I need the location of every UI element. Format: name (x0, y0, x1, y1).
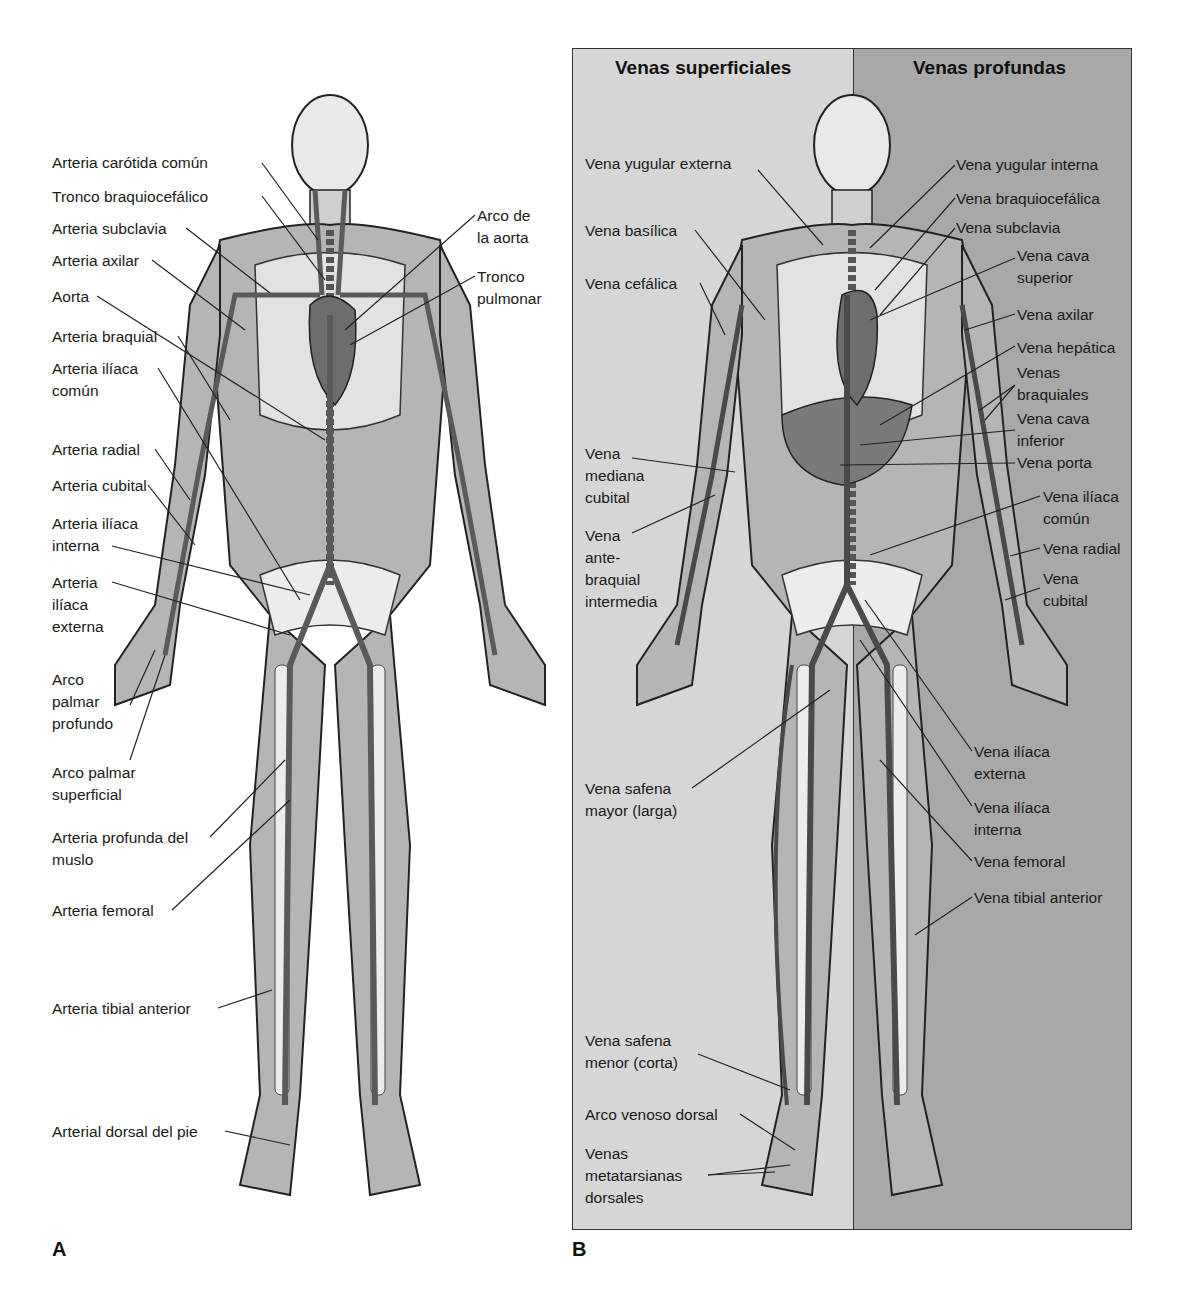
artery-label: Arteria carótida común (52, 152, 208, 174)
artery-label: Arteria ilíaca común (52, 358, 138, 402)
vein-label: Venas metatarsianas dorsales (585, 1143, 682, 1209)
vein-label: Vena ilíaca común (1043, 486, 1119, 530)
artery-label: Arteria ilíaca interna (52, 513, 138, 557)
vein-label: Vena radial (1043, 538, 1121, 560)
artery-label: Arterial dorsal del pie (52, 1121, 198, 1143)
artery-label: Arteria radial (52, 439, 140, 461)
artery-label: Arco palmar profundo (52, 669, 113, 735)
vein-label: Venas braquiales (1017, 362, 1089, 406)
artery-label: Tronco braquiocefálico (52, 186, 208, 208)
artery-label: Arteria cubital (52, 475, 147, 497)
vein-label: Vena safena menor (corta) (585, 1030, 678, 1074)
vein-label: Vena mediana cubital (585, 443, 644, 509)
artery-label: Tronco pulmonar (477, 266, 542, 310)
vein-label: Vena yugular externa (585, 153, 732, 175)
vein-label: Vena porta (1017, 452, 1092, 474)
vein-label: Vena hepática (1017, 337, 1115, 359)
artery-label: Arteria tibial anterior (52, 998, 191, 1020)
vein-label: Arco venoso dorsal (585, 1104, 718, 1126)
artery-label: Arteria axilar (52, 250, 139, 272)
vein-label: Vena cefálica (585, 273, 677, 295)
artery-label: Arteria femoral (52, 900, 154, 922)
vein-label: Vena femoral (974, 851, 1065, 873)
vein-label: Vena basílica (585, 220, 677, 242)
panel-a-letter: A (52, 1238, 66, 1261)
vein-label: Vena ante- braquial intermedia (585, 525, 657, 613)
panel-b-letter: B (572, 1238, 586, 1261)
vein-label: Vena axilar (1017, 304, 1094, 326)
artery-label: Arteria ilíaca externa (52, 572, 104, 638)
vein-label: Vena braquiocefálica (956, 188, 1100, 210)
artery-label: Aorta (52, 286, 89, 308)
artery-label: Arco de la aorta (477, 205, 530, 249)
vein-label: Vena yugular interna (956, 154, 1098, 176)
vein-label: Vena ilíaca externa (974, 741, 1050, 785)
vein-label: Vena ilíaca interna (974, 797, 1050, 841)
vein-label: Vena cava inferior (1017, 408, 1089, 452)
artery-label: Arteria subclavia (52, 218, 167, 240)
vein-label: Vena safena mayor (larga) (585, 778, 677, 822)
vein-label: Vena cubital (1043, 568, 1088, 612)
vein-label: Vena subclavia (956, 217, 1060, 239)
artery-label: Arco palmar superficial (52, 762, 136, 806)
artery-label: Arteria profunda del muslo (52, 827, 188, 871)
vein-label: Vena tibial anterior (974, 887, 1102, 909)
artery-label: Arteria braquial (52, 326, 157, 348)
vein-label: Vena cava superior (1017, 245, 1089, 289)
